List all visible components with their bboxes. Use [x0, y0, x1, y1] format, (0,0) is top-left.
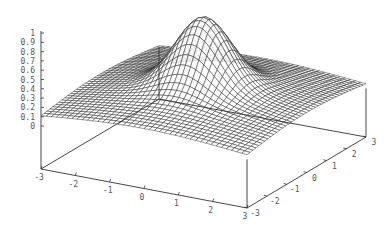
y-tick-label: -3 [250, 209, 260, 218]
z-tick-label: 0.2 [21, 103, 36, 112]
x-tick-label: 3 [243, 212, 248, 221]
y-tick-label: -2 [270, 197, 280, 206]
x-tick-label: -3 [34, 173, 44, 182]
surface-mesh [41, 17, 366, 155]
z-tick-label: 0.3 [21, 94, 36, 103]
z-tick-label: 0 [30, 122, 35, 131]
x-tick-label: -2 [69, 180, 79, 189]
x-axis: -3-2-10123 [34, 166, 248, 221]
x-tick-label: -1 [103, 186, 113, 195]
z-tick-label: 0.7 [21, 57, 36, 66]
z-tick-label: 0.1 [21, 113, 36, 122]
z-tick-label: 0.4 [21, 85, 36, 94]
surface-plot: 00.10.20.30.40.50.60.70.80.91 -3-2-10123… [0, 0, 391, 229]
z-tick-label: 1 [30, 29, 35, 38]
y-tick-label: 3 [372, 138, 377, 147]
y-tick-label: 1 [332, 162, 337, 171]
z-tick-label: 0.5 [21, 76, 36, 85]
x-tick-label: 1 [174, 199, 179, 208]
y-tick-label: 0 [312, 174, 317, 183]
z-tick-label: 0.8 [21, 48, 36, 57]
y-tick-label: -1 [290, 185, 300, 194]
y-axis: -3-2-10123 [244, 136, 377, 218]
z-tick-label: 0.9 [21, 38, 36, 47]
x-tick-label: 2 [208, 206, 213, 215]
y-tick-label: 2 [352, 150, 357, 159]
z-axis: 00.10.20.30.40.50.60.70.80.91 [21, 29, 44, 131]
z-tick-label: 0.6 [21, 66, 36, 75]
x-tick-label: 0 [140, 193, 145, 202]
